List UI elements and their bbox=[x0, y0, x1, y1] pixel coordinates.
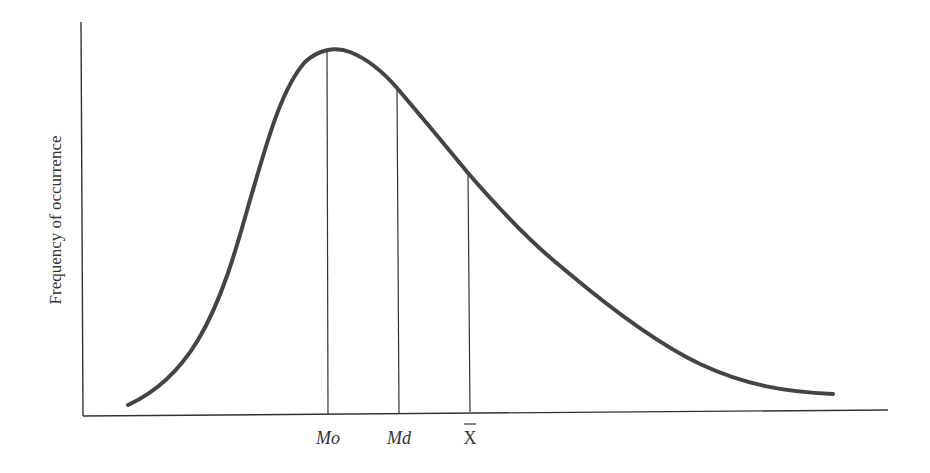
mean-line bbox=[468, 173, 470, 412]
distribution-curve bbox=[128, 49, 833, 405]
y-axis bbox=[81, 22, 83, 416]
mean-label-group: X bbox=[464, 424, 477, 448]
skewed-distribution-chart: Frequency of occurrence Mo Md X bbox=[0, 0, 930, 473]
mode-line bbox=[327, 50, 328, 414]
median-line bbox=[397, 88, 399, 413]
mean-label: X bbox=[464, 428, 477, 448]
y-axis-label: Frequency of occurrence bbox=[46, 136, 65, 305]
median-label: Md bbox=[386, 428, 412, 448]
x-axis bbox=[83, 410, 888, 416]
mode-label: Mo bbox=[315, 428, 340, 448]
